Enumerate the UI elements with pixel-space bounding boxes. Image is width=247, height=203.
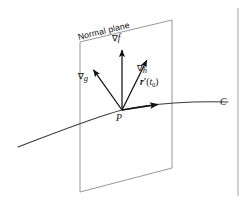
grad-h-function: h	[143, 65, 147, 75]
normal-plane-polygon	[80, 20, 172, 192]
grad-g-function: g	[84, 73, 88, 83]
grad-f-function: f	[118, 33, 121, 43]
nabla-icon: ∇	[137, 63, 143, 73]
nabla-icon: ∇	[78, 71, 84, 81]
curve-c-label: C	[220, 97, 226, 107]
tangent-param-subscript: 0	[152, 81, 155, 88]
normal-plane-figure: Normal plane ∇f ∇g ∇h r′(t0) P C	[0, 0, 247, 203]
tangent-vector-label: r′(t0)	[140, 78, 158, 87]
paren-close: )	[155, 77, 158, 87]
grad-g-label: ∇g	[78, 71, 88, 81]
grad-h-label: ∇h	[137, 63, 147, 73]
grad-f-label: ∇f	[112, 33, 120, 43]
point-p-label: P	[116, 113, 122, 123]
